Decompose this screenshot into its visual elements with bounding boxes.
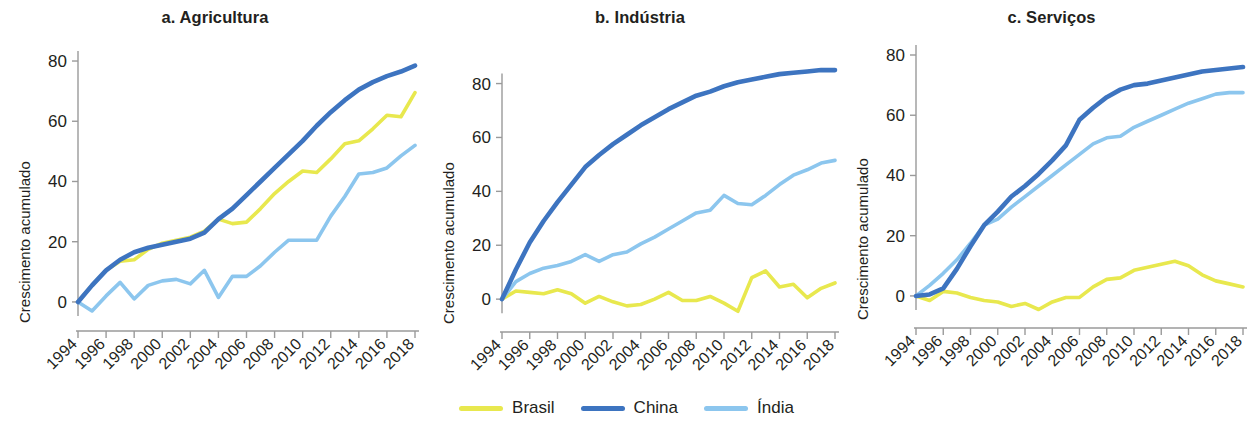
x-tick-label: 2006 [1044,332,1081,369]
panel-agricultura: a. AgriculturaCrescimento acumulado02040… [0,0,430,392]
y-tick-label: 20 [48,233,67,252]
y-tick-label: 60 [48,112,67,131]
y-tick-label: 40 [472,182,491,201]
series-line-brasil [916,261,1243,309]
x-tick-label: 1996 [71,335,108,372]
chart-legend: BrasilChinaÍndia [0,398,1253,418]
y-tick-label: 60 [886,106,905,125]
legend-swatch-icon [581,406,625,411]
x-tick-label: 2010 [268,335,305,372]
y-tick-label: 80 [472,75,491,94]
series-line-china [78,66,415,302]
legend-label: Brasil [512,398,555,418]
legend-item-brasil[interactable]: Brasil [459,398,555,418]
plot-area-agricultura: 0204060801994199619982000200220042006200… [0,0,430,392]
plot-area-servicos: 0204060801994199619982000200220042006200… [850,0,1253,392]
x-tick-label: 2002 [578,336,615,373]
x-tick-label: 2004 [183,335,220,372]
x-tick-label: 2012 [717,336,754,373]
x-tick-label: 2004 [1017,332,1054,369]
legend-label: China [634,398,678,418]
x-tick-label: 2008 [1072,332,1109,369]
y-tick-label: 0 [896,287,905,306]
y-tick-label: 20 [886,227,905,246]
x-tick-label: 2018 [380,335,417,372]
x-tick-label: 1994 [467,336,504,373]
x-tick-label: 1996 [495,336,532,373]
x-tick-label: 2016 [772,336,809,373]
x-tick-label: 2006 [211,335,248,372]
x-tick-label: 1998 [522,336,559,373]
x-tick-label: 2018 [1208,332,1245,369]
x-tick-label: 1994 [43,335,80,372]
x-tick-label: 1996 [908,332,945,369]
figure-root: a. AgriculturaCrescimento acumulado02040… [0,0,1253,422]
x-tick-label: 1994 [881,332,918,369]
series-line-india [78,145,415,311]
y-tick-label: 0 [58,293,67,312]
x-tick-label: 2014 [744,336,781,373]
x-tick-label: 2012 [1126,332,1163,369]
panel-servicos: c. ServiçosCrescimento acumulado02040608… [850,0,1253,392]
y-tick-label: 0 [482,290,491,309]
y-tick-label: 60 [472,128,491,147]
x-tick-label: 2016 [352,335,389,372]
x-tick-label: 2018 [800,336,837,373]
plot-area-industria: 0204060801994199619982000200220042006200… [430,0,850,392]
legend-item-china[interactable]: China [581,398,678,418]
series-line-brasil [502,271,835,311]
x-tick-label: 2002 [155,335,192,372]
x-tick-label: 1998 [935,332,972,369]
x-tick-label: 2008 [240,335,277,372]
x-tick-label: 2014 [1153,332,1190,369]
y-tick-label: 40 [48,172,67,191]
x-tick-label: 1998 [99,335,136,372]
x-tick-label: 2008 [661,336,698,373]
x-tick-label: 2012 [296,335,333,372]
x-tick-label: 2000 [963,332,1000,369]
x-tick-label: 2004 [606,336,643,373]
y-tick-label: 80 [48,52,67,71]
x-tick-label: 2016 [1181,332,1218,369]
x-tick-label: 2000 [127,335,164,372]
y-tick-label: 40 [886,166,905,185]
x-tick-label: 2014 [324,335,361,372]
x-tick-label: 2006 [633,336,670,373]
x-tick-label: 2002 [990,332,1027,369]
x-tick-label: 2010 [689,336,726,373]
legend-item-india[interactable]: Índia [704,398,794,418]
series-line-india [502,160,835,299]
x-tick-label: 2010 [1099,332,1136,369]
panel-industria: b. IndústriaCrescimento acumulado0204060… [430,0,850,392]
legend-swatch-icon [704,406,748,411]
legend-label: Índia [757,398,794,418]
y-tick-label: 80 [886,46,905,65]
legend-swatch-icon [459,406,503,411]
y-tick-label: 20 [472,236,491,255]
x-tick-label: 2000 [550,336,587,373]
